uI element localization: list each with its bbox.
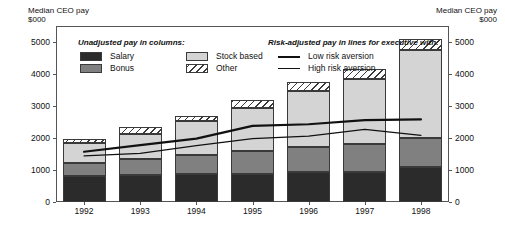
- y-tick-mark-right: [449, 138, 452, 139]
- bar-column: [399, 26, 442, 202]
- bar-segment-salary: [287, 172, 330, 202]
- y-tick-label-right: 3000: [455, 102, 497, 111]
- bar-segment-bonus: [63, 163, 106, 176]
- y-tick-label-left: 1000: [8, 166, 50, 175]
- bar-segment-other: [231, 100, 274, 109]
- y-tick-label-right: 0: [455, 198, 497, 207]
- left-axis-title: Median CEO pay $000: [28, 6, 89, 24]
- x-tick-label: 1995: [227, 207, 279, 216]
- x-tick-label: 1992: [58, 207, 110, 216]
- legend-lines-heading: Risk-adjusted pay in lines for executive…: [268, 38, 439, 47]
- bar-segment-bonus: [231, 151, 274, 173]
- x-tick-mark: [84, 202, 85, 205]
- y-tick-mark-left: [53, 74, 56, 75]
- legend-label-low-risk-aversion: Low risk aversion: [308, 51, 374, 61]
- y-tick-label-left: 3000: [8, 102, 50, 111]
- y-tick-mark-right: [449, 170, 452, 171]
- legend-columns-heading: Unadjusted pay in columns:: [78, 38, 185, 47]
- x-tick-mark: [365, 202, 366, 205]
- y-tick-mark-right: [449, 74, 452, 75]
- x-tick-label: 1997: [339, 207, 391, 216]
- x-tick-label: 1996: [283, 207, 335, 216]
- y-tick-label-right: 4000: [455, 70, 497, 79]
- bar-segment-other: [287, 82, 330, 90]
- y-tick-mark-left: [53, 170, 56, 171]
- bar-segment-salary: [343, 172, 386, 202]
- bar-segment-salary: [231, 174, 274, 202]
- legend-line-low-risk-aversion: [278, 56, 300, 58]
- bar-segment-salary: [399, 167, 442, 202]
- bar-segment-salary: [63, 176, 106, 202]
- bar-segment-stock-based: [399, 50, 442, 138]
- legend-label-bonus: Bonus: [110, 63, 134, 73]
- legend-label-salary: Salary: [110, 51, 134, 61]
- x-tick-mark: [196, 202, 197, 205]
- legend-swatch-stock-based: [186, 52, 208, 61]
- bar-segment-other: [63, 139, 106, 143]
- y-tick-label-left: 0: [8, 198, 50, 207]
- legend-label-high-risk-aversion: High risk aversion: [308, 63, 376, 73]
- y-tick-mark-left: [53, 202, 56, 203]
- y-tick-label-right: 5000: [455, 38, 497, 47]
- y-tick-mark-left: [53, 106, 56, 107]
- x-tick-label: 1998: [395, 207, 447, 216]
- bar-segment-other: [119, 127, 162, 133]
- bar-segment-stock-based: [119, 134, 162, 160]
- y-tick-mark-right: [449, 202, 452, 203]
- bar-segment-bonus: [119, 159, 162, 174]
- x-tick-mark: [140, 202, 141, 205]
- x-tick-mark: [309, 202, 310, 205]
- chart-root: Median CEO pay $000 Median CEO pay $000 …: [0, 0, 505, 228]
- y-tick-mark-right: [449, 106, 452, 107]
- bar-segment-stock-based: [175, 121, 218, 155]
- y-tick-mark-left: [53, 138, 56, 139]
- bar-segment-stock-based: [63, 143, 106, 163]
- y-tick-label-left: 5000: [8, 38, 50, 47]
- y-tick-mark-left: [53, 42, 56, 43]
- x-tick-mark: [253, 202, 254, 205]
- bar-segment-stock-based: [343, 79, 386, 144]
- bar-segment-salary: [119, 175, 162, 202]
- x-tick-label: 1993: [114, 207, 166, 216]
- bar-segment-stock-based: [231, 108, 274, 151]
- legend-label-stock-based: Stock based: [216, 51, 263, 61]
- legend-label-other: Other: [216, 63, 237, 73]
- bar-segment-salary: [175, 174, 218, 202]
- bar-segment-other: [175, 116, 218, 121]
- y-tick-label-right: 2000: [455, 134, 497, 143]
- y-tick-mark-right: [449, 42, 452, 43]
- legend-swatch-bonus: [80, 64, 102, 73]
- bar-segment-bonus: [399, 138, 442, 167]
- y-tick-label-left: 4000: [8, 70, 50, 79]
- legend-line-high-risk-aversion: [278, 68, 300, 69]
- bar-segment-bonus: [287, 147, 330, 172]
- x-tick-mark: [421, 202, 422, 205]
- bar-segment-bonus: [175, 155, 218, 175]
- y-tick-label-right: 1000: [455, 166, 497, 175]
- legend-swatch-other: [186, 64, 208, 73]
- y-tick-label-left: 2000: [8, 134, 50, 143]
- legend-swatch-salary: [80, 52, 102, 61]
- right-axis-title: Median CEO pay $000: [436, 6, 497, 24]
- bar-segment-stock-based: [287, 91, 330, 147]
- x-tick-label: 1994: [170, 207, 222, 216]
- bar-segment-bonus: [343, 144, 386, 172]
